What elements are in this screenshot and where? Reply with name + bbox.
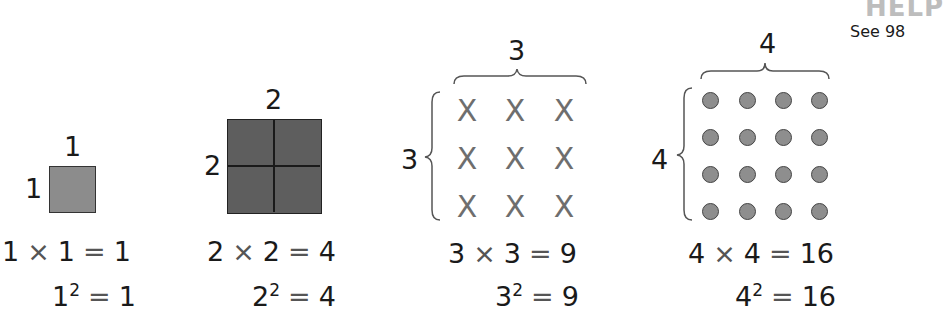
result: 1 [119, 281, 136, 312]
factor-a: 4 [688, 238, 705, 269]
dot [811, 166, 828, 183]
x-mark: X [549, 192, 579, 222]
equals-sign: = [288, 281, 311, 312]
exponent: 2 [512, 280, 523, 300]
times-sign: × [27, 236, 50, 267]
dot [739, 203, 756, 220]
equals-sign: = [288, 236, 311, 267]
base: 1 [52, 281, 69, 312]
dot [739, 92, 756, 109]
result: 16 [800, 238, 834, 269]
top-label: 1 [64, 133, 81, 160]
times-sign: × [232, 236, 255, 267]
x-mark: X [549, 144, 579, 174]
x-mark: X [452, 96, 482, 126]
factor-b: 2 [263, 236, 280, 267]
equals-sign: = [771, 281, 794, 312]
equals-sign: = [531, 281, 554, 312]
side-label: 3 [401, 146, 418, 173]
base: 3 [495, 281, 512, 312]
dot [702, 166, 719, 183]
side-brace-icon [675, 86, 695, 222]
exponent: 2 [752, 280, 763, 300]
top-label: 3 [508, 37, 525, 64]
square-equation: 32=9 [495, 282, 579, 310]
equals-sign: = [88, 281, 111, 312]
result: 4 [319, 236, 336, 267]
square-equation: 42=16 [735, 282, 836, 310]
grid-square [227, 119, 322, 214]
factor-b: 4 [744, 238, 761, 269]
result: 1 [114, 236, 131, 267]
top-brace-icon [699, 61, 834, 83]
base: 2 [252, 281, 269, 312]
dot [702, 129, 719, 146]
product-equation: 1×1=1 [2, 238, 131, 265]
base: 4 [735, 281, 752, 312]
dot [775, 129, 792, 146]
dot [702, 203, 719, 220]
dot [811, 203, 828, 220]
dot [739, 129, 756, 146]
product-equation: 2×2=4 [207, 238, 336, 265]
product-equation: 4×4=16 [688, 240, 834, 267]
square-equation: 12=1 [52, 282, 136, 310]
factor-a: 2 [207, 236, 224, 267]
x-mark: X [452, 144, 482, 174]
dot [739, 166, 756, 183]
result: 9 [562, 281, 579, 312]
x-mark: X [500, 96, 530, 126]
result: 4 [319, 281, 336, 312]
see-page-reference: See 98 [850, 22, 905, 41]
product-equation: 3×3=9 [448, 240, 577, 267]
square-equation: 22=4 [252, 282, 336, 310]
dot [775, 166, 792, 183]
side-label: 1 [25, 175, 42, 202]
times-sign: × [713, 238, 736, 269]
help-heading: HELP [865, 0, 944, 22]
x-mark: X [452, 192, 482, 222]
x-mark: X [549, 96, 579, 126]
dot [775, 203, 792, 220]
equals-sign: = [529, 238, 552, 269]
exponent: 2 [269, 280, 280, 300]
equals-sign: = [83, 236, 106, 267]
factor-b: 1 [58, 236, 75, 267]
top-label: 2 [265, 86, 282, 113]
times-sign: × [473, 238, 496, 269]
grid-line-horizontal [228, 165, 320, 167]
dot [702, 92, 719, 109]
top-label: 4 [759, 30, 776, 57]
exponent: 2 [69, 280, 80, 300]
factor-a: 3 [448, 238, 465, 269]
side-brace-icon [423, 90, 443, 222]
dot [775, 92, 792, 109]
factor-b: 3 [504, 238, 521, 269]
result: 9 [560, 238, 577, 269]
factor-a: 1 [2, 236, 19, 267]
side-label: 2 [204, 152, 221, 179]
x-mark: X [500, 144, 530, 174]
equals-sign: = [769, 238, 792, 269]
top-brace-icon [452, 68, 592, 88]
result: 16 [802, 281, 836, 312]
unit-square [49, 166, 96, 213]
x-mark: X [500, 192, 530, 222]
dot [811, 129, 828, 146]
dot [811, 92, 828, 109]
side-label: 4 [651, 146, 668, 173]
